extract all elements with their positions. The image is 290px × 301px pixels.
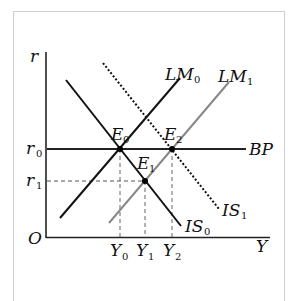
is0-sub: 0 [204, 226, 210, 237]
r1-sub: 1 [36, 180, 42, 191]
e1-label: E [136, 153, 150, 173]
point-e1 [142, 178, 148, 184]
y-axis-label: Y [256, 236, 269, 256]
origin-label: O [28, 228, 42, 248]
lm1-curve [109, 82, 229, 223]
y0-sub: 0 [122, 251, 128, 262]
bp-label: BP [248, 139, 273, 159]
r1-label: r [26, 170, 35, 190]
r0-label: r [26, 138, 35, 158]
e2-label: E [163, 124, 177, 144]
is1-sub: 1 [241, 210, 247, 221]
lm1-label: LM [217, 66, 247, 86]
e0-label: E [110, 124, 124, 144]
is1-label: IS [221, 200, 240, 220]
lm0-sub: 0 [194, 74, 200, 85]
is0-label: IS [184, 216, 203, 236]
point-e2 [169, 146, 175, 152]
y1-sub: 1 [148, 251, 154, 262]
is0-curve [66, 80, 181, 226]
r-axis-label: r [30, 46, 39, 66]
e0-sub: 0 [123, 134, 129, 145]
lm1-sub: 1 [247, 76, 253, 87]
r0-sub: 0 [36, 148, 42, 159]
e1-sub: 1 [149, 163, 155, 174]
point-e0 [117, 146, 123, 152]
e2-sub: 2 [176, 134, 182, 145]
y2-sub: 2 [175, 251, 181, 262]
lm0-label: LM [164, 64, 194, 84]
